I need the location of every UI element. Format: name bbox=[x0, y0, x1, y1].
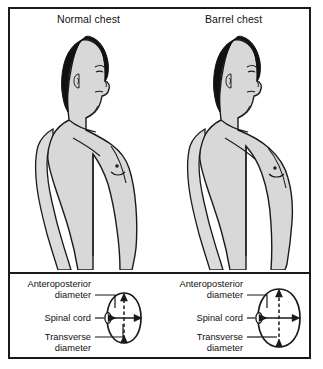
label-transverse-line1-normal: Transverse bbox=[45, 332, 91, 342]
panel-title-barrel-chest: Barrel chest bbox=[205, 13, 262, 25]
leader-anteroposterior-normal bbox=[95, 295, 115, 308]
label-transverse-line1-barrel: Transverse bbox=[197, 332, 243, 342]
label-anteroposterior-line2-barrel: diameter bbox=[207, 290, 243, 300]
label-spinal-cord-normal: Spinal cord bbox=[44, 313, 91, 323]
cross-section-normal-chest: Anteroposterior diameter Spinal cord Tra… bbox=[11, 276, 157, 360]
label-anteroposterior-line1-normal: Anteroposterior bbox=[27, 279, 91, 289]
label-transverse-line2-barrel: diameter bbox=[207, 343, 243, 353]
profile-figure-normal-chest bbox=[16, 26, 156, 270]
panel-title-normal-chest: Normal chest bbox=[57, 13, 120, 25]
spinal-cord-marker-normal bbox=[105, 313, 111, 323]
normal-chest-body bbox=[36, 36, 137, 270]
label-spinal-cord-barrel: Spinal cord bbox=[196, 313, 243, 323]
profile-figure-barrel-chest bbox=[168, 26, 308, 270]
label-anteroposterior-line2-normal: diameter bbox=[55, 290, 91, 300]
label-transverse-line2-normal: diameter bbox=[55, 343, 91, 353]
barrel-chest-body bbox=[188, 36, 293, 270]
spinal-cord-marker-barrel bbox=[256, 313, 262, 323]
chest-comparison-figure: Normal chest Barrel chest bbox=[0, 0, 323, 369]
label-anteroposterior-line1-barrel: Anteroposterior bbox=[179, 279, 243, 289]
cross-section-barrel-chest: Anteroposterior diameter Spinal cord Tra… bbox=[163, 276, 309, 360]
panel-divider bbox=[10, 272, 309, 274]
